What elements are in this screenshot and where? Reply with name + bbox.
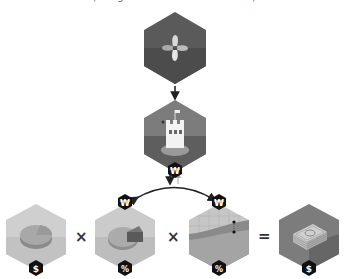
multiply-operator-1: × (75, 230, 88, 245)
badge-won: ₩ (167, 162, 183, 178)
svg-text:₩: ₩ (120, 198, 130, 208)
node-trend: ₩ % (189, 204, 249, 270)
node-share: ₩ % (95, 204, 155, 270)
svg-text:%: % (215, 265, 223, 274)
badge-dollar: $ (28, 260, 44, 276)
node-result: $ (279, 204, 339, 270)
arrow-branch-curve (135, 188, 213, 200)
badge-percent: % (117, 260, 133, 276)
svg-text:$: $ (306, 264, 312, 274)
badge-percent: % (211, 260, 227, 276)
equals-operator: = (258, 229, 271, 244)
badge-won-top: ₩ (117, 194, 133, 210)
svg-text:$: $ (33, 264, 39, 274)
svg-text:₩: ₩ (170, 166, 180, 176)
svg-text:%: % (121, 265, 129, 274)
svg-text:₩: ₩ (214, 198, 224, 208)
pie-disc-icon (20, 225, 52, 249)
node-value: $ (6, 204, 66, 270)
node-castle: ₩ (144, 100, 206, 172)
node-origin (144, 12, 206, 84)
multiply-operator-2: × (167, 230, 180, 245)
badge-dollar: $ (301, 260, 317, 276)
badge-won-top: ₩ (211, 194, 227, 210)
